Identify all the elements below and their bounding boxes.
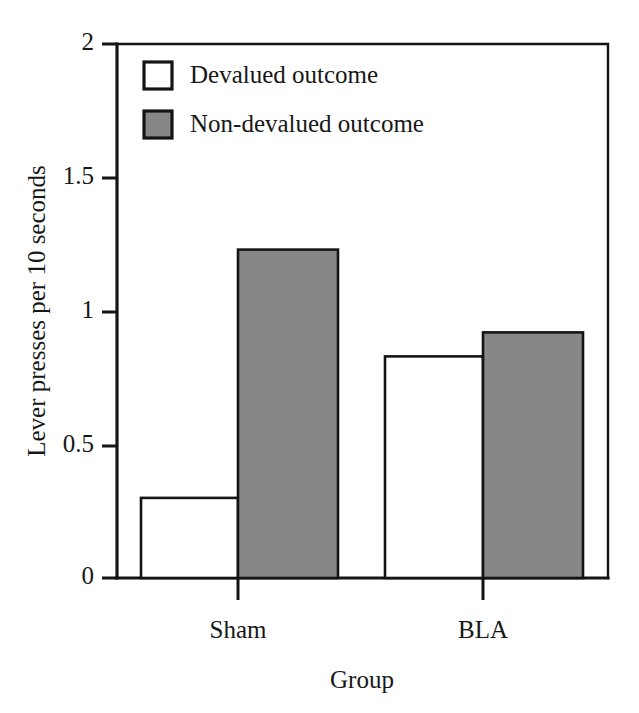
x-tick-label-sham: Sham bbox=[210, 616, 268, 643]
chart-canvas: 2 1.5 1 0.5 0 Sham BLA Group Lever press… bbox=[0, 0, 639, 713]
legend-label-non-devalued: Non-devalued outcome bbox=[190, 110, 424, 137]
y-tick-label-1: 1 bbox=[82, 296, 95, 323]
y-tick-label-1p5: 1.5 bbox=[63, 162, 94, 189]
y-axis-title: Lever presses per 10 seconds bbox=[23, 165, 50, 457]
legend-swatch-non-devalued-icon bbox=[144, 111, 172, 138]
bar-sham-non-devalued bbox=[238, 250, 338, 578]
y-tick-label-2: 2 bbox=[82, 28, 95, 55]
bar-chart-figure: 2 1.5 1 0.5 0 Sham BLA Group Lever press… bbox=[0, 0, 639, 713]
y-tick-label-0: 0 bbox=[82, 562, 95, 589]
x-axis-title: Group bbox=[330, 666, 394, 693]
x-tick-label-bla: BLA bbox=[458, 616, 508, 643]
legend-swatch-devalued-icon bbox=[144, 62, 172, 89]
y-tick-label-0p5: 0.5 bbox=[63, 430, 94, 457]
legend-label-devalued: Devalued outcome bbox=[190, 61, 378, 88]
bar-sham-devalued bbox=[141, 498, 238, 578]
bar-bla-devalued bbox=[385, 356, 483, 578]
bar-bla-non-devalued bbox=[483, 332, 583, 578]
